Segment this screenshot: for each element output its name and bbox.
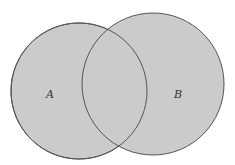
set-a-label: A bbox=[45, 88, 54, 101]
set-b-label: B bbox=[173, 88, 182, 101]
set-b-circle bbox=[82, 13, 224, 155]
venn-diagram: A B bbox=[0, 0, 235, 165]
